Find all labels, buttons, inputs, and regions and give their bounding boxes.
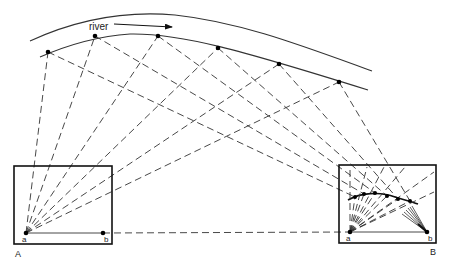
river-point [277, 62, 282, 67]
sight-lines-a [26, 36, 339, 233]
river-point [156, 34, 161, 39]
river-point [93, 34, 98, 39]
river-point [216, 46, 221, 51]
box-a: a b A [14, 166, 112, 259]
box-a-point-a-label: a [22, 235, 27, 244]
box-b: a b B [339, 165, 436, 257]
box-a-label: A [15, 249, 21, 259]
box-b-point-b-label: b [428, 234, 433, 243]
box-a-point-b-label: b [104, 235, 109, 244]
plotted-point [353, 195, 357, 199]
river-flow-arrow [114, 24, 172, 27]
plotted-point [385, 194, 389, 198]
plotted-point [396, 197, 400, 201]
box-b-point-a-label: a [346, 234, 351, 243]
box-b-rays-b [402, 206, 427, 232]
river-label: river [89, 21, 109, 32]
plotted-point [373, 191, 377, 195]
plotted-point [362, 192, 366, 196]
triangulation-diagram: river a b A [0, 0, 451, 274]
river-point [337, 80, 342, 85]
plotted-point [408, 199, 412, 203]
baseline-connector [103, 232, 350, 233]
box-b-label: B [430, 247, 436, 257]
river: river [30, 14, 372, 90]
river-point [46, 50, 51, 55]
